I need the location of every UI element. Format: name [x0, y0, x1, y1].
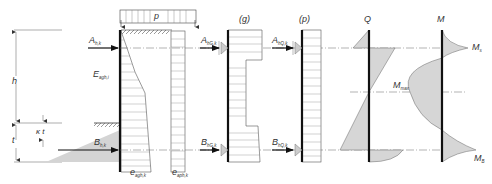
label-sub: hG,k — [207, 143, 217, 148]
label-sub: B — [482, 159, 485, 164]
moment-Mmax-label: Mmax — [393, 81, 409, 92]
anchor-A-label: Ah,k — [89, 36, 101, 47]
moment-MB-label: MB — [474, 154, 485, 165]
dim-t-label: t — [12, 136, 15, 145]
dimension-lines — [14, 30, 62, 162]
label-sub: max — [401, 86, 410, 91]
earth-pressure-E-label: Eagh,i — [93, 70, 109, 81]
soil-surface-hatch — [121, 30, 169, 34]
label-sub: agh,i — [99, 75, 109, 80]
label-base: M — [474, 153, 482, 163]
moment-diagram-title: M — [437, 15, 445, 24]
p-diagram-title: (p) — [299, 15, 310, 24]
diagram-canvas — [0, 0, 492, 184]
e-aph-label: eaph,k — [172, 168, 188, 179]
g-anchor-A-label: AhG,k — [201, 36, 217, 47]
g-support-B-label: BhG,k — [201, 138, 217, 149]
label-sub: s — [480, 48, 482, 53]
label-base: M — [472, 42, 480, 52]
label-sub: h,k — [95, 41, 101, 46]
sheet-pile-diagram: h t κ t p Ah,k Eagh,i Bh,k eagh,k eaph,k… — [0, 0, 492, 184]
dim-h-label: h — [12, 77, 17, 86]
bending-moment-diagram — [408, 30, 476, 162]
passive-earth-wedge — [46, 130, 120, 162]
shear-force-diagram — [340, 30, 403, 162]
earth-pressure-diagram — [121, 31, 151, 172]
shear-diagram-title: Q — [364, 15, 371, 24]
dim-kappa-t-label: κ t — [36, 128, 44, 136]
label-sub: aph,k — [177, 173, 188, 178]
p-support-B-label: BhQ,k — [272, 138, 288, 149]
label-sub: agh,k — [135, 173, 146, 178]
live-load-pressure-diagram — [171, 31, 185, 172]
p-anchor-A-label: AhQ,k — [272, 36, 288, 47]
support-B-label: Bh,k — [94, 138, 106, 149]
label-sub: hQ,k — [278, 143, 288, 148]
load-p-label: p — [154, 12, 159, 21]
g-diagram-title: (g) — [239, 15, 250, 24]
label-sub: h,k — [100, 143, 106, 148]
label-base: M — [393, 80, 401, 90]
label-sub: hG,k — [207, 41, 217, 46]
e-agh-label: eagh,k — [130, 168, 146, 179]
moment-Ms-label: Ms — [472, 43, 482, 54]
label-sub: hQ,k — [278, 41, 288, 46]
